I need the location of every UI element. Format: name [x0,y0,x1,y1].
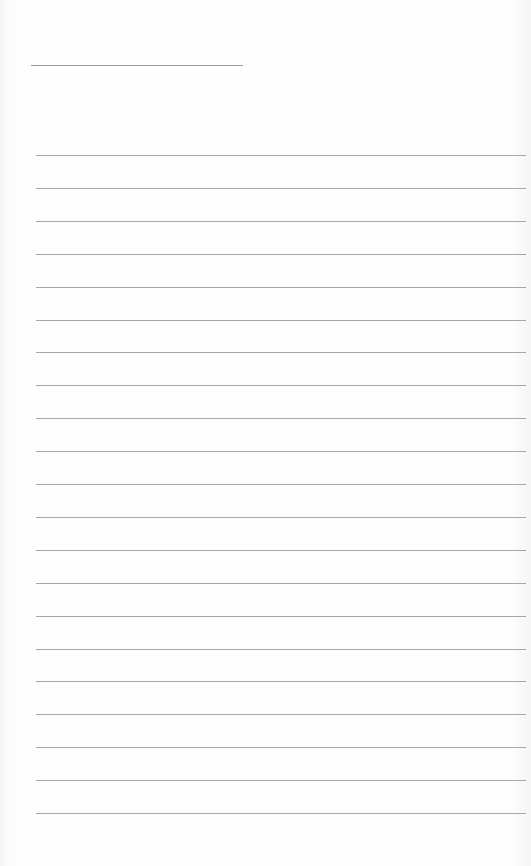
header-line [31,65,243,66]
ruled-line [36,484,526,485]
ruled-line [36,550,526,551]
ruled-line [36,418,526,419]
ruled-line [36,649,526,650]
ruled-line [36,813,526,814]
lined-paper [0,0,531,866]
ruled-line [36,616,526,617]
ruled-line [36,451,526,452]
ruled-line [36,385,526,386]
ruled-line [36,747,526,748]
ruled-line [36,583,526,584]
ruled-line [36,188,526,189]
ruled-line [36,320,526,321]
ruled-line [36,681,526,682]
ruled-line [36,517,526,518]
ruled-line [36,780,526,781]
ruled-line [36,254,526,255]
ruled-line [36,155,526,156]
ruled-line [36,352,526,353]
ruled-line [36,714,526,715]
ruled-line [36,287,526,288]
ruled-line [36,221,526,222]
